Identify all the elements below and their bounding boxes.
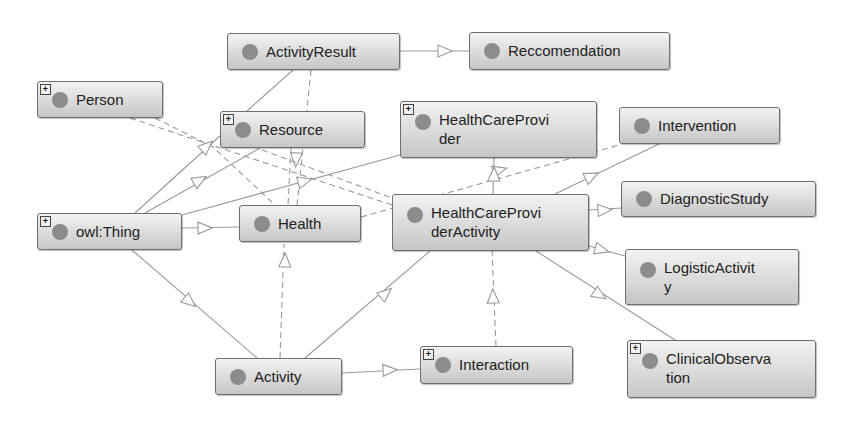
class-dot-icon bbox=[640, 262, 656, 278]
class-node-diagnostic-study[interactable]: DiagnosticStudy bbox=[621, 181, 816, 217]
class-node-owl-thing[interactable]: +owl:Thing bbox=[37, 213, 182, 250]
class-label: owl:Thing bbox=[76, 222, 175, 241]
class-node-clinical-observation[interactable]: +ClinicalObserva tion bbox=[627, 340, 816, 398]
arrowhead-icon bbox=[377, 288, 392, 302]
class-label: Resource bbox=[259, 120, 358, 139]
class-dot-icon bbox=[242, 44, 258, 60]
class-dot-icon bbox=[235, 122, 251, 138]
class-label: Intervention bbox=[658, 116, 773, 135]
class-node-intervention[interactable]: Intervention bbox=[619, 107, 780, 144]
class-dot-icon bbox=[230, 369, 246, 385]
edge-activity_result-to-resource bbox=[247, 70, 293, 111]
expand-plus-icon[interactable]: + bbox=[223, 114, 234, 125]
class-dot-icon bbox=[435, 357, 451, 373]
arrowhead-icon bbox=[290, 153, 302, 167]
class-node-activity-result[interactable]: ActivityResult bbox=[227, 33, 400, 70]
class-label: Activity bbox=[254, 367, 335, 386]
class-node-person[interactable]: +Person bbox=[37, 81, 163, 118]
class-node-health-care-provider[interactable]: +HealthCareProvi der bbox=[400, 101, 597, 158]
class-label: HealthCareProvi derActivity bbox=[431, 203, 582, 241]
class-node-interaction[interactable]: +Interaction bbox=[420, 346, 573, 384]
arrowhead-icon bbox=[181, 293, 196, 307]
arrowhead-icon bbox=[487, 289, 499, 303]
class-label: LogisticActivit y bbox=[664, 258, 792, 296]
arrowhead-icon bbox=[438, 45, 452, 57]
class-dot-icon bbox=[636, 191, 652, 207]
class-label: Interaction bbox=[459, 355, 566, 374]
class-dot-icon bbox=[484, 43, 500, 59]
class-dot-icon bbox=[52, 224, 68, 240]
class-node-health-care-provider-activity[interactable]: HealthCareProvi derActivity bbox=[392, 194, 589, 251]
expand-plus-icon[interactable]: + bbox=[40, 84, 51, 95]
class-node-reccomendation[interactable]: Reccomendation bbox=[469, 32, 670, 70]
edge-activity-to-interaction bbox=[342, 369, 420, 373]
class-label: ClinicalObserva tion bbox=[666, 349, 809, 387]
class-dot-icon bbox=[415, 114, 431, 130]
arrowhead-icon bbox=[594, 242, 609, 254]
expand-plus-icon[interactable]: + bbox=[423, 349, 434, 360]
arrowhead-icon bbox=[191, 177, 206, 189]
class-label: HealthCareProvi der bbox=[439, 110, 590, 148]
class-node-resource[interactable]: +Resource bbox=[220, 111, 365, 148]
edge-activity-to-health_care_provider_activity bbox=[305, 251, 430, 358]
expand-plus-icon[interactable]: + bbox=[630, 343, 641, 354]
class-label: ActivityResult bbox=[266, 42, 393, 61]
class-dot-icon bbox=[642, 353, 658, 369]
expand-plus-icon[interactable]: + bbox=[403, 104, 414, 115]
class-node-logistic-activity[interactable]: LogisticActivit y bbox=[625, 249, 799, 305]
class-dot-icon bbox=[407, 207, 423, 223]
class-dot-icon bbox=[634, 118, 650, 134]
expand-plus-icon[interactable]: + bbox=[40, 216, 51, 227]
arrowhead-icon bbox=[297, 177, 312, 189]
class-label: DiagnosticStudy bbox=[660, 189, 809, 208]
edge-resource-to-health_care_provider_activity bbox=[262, 150, 392, 198]
class-dot-icon bbox=[254, 216, 270, 232]
arrowhead-icon bbox=[598, 204, 612, 216]
arrowhead-icon bbox=[279, 253, 291, 267]
class-label: Health bbox=[278, 214, 354, 233]
class-node-activity[interactable]: Activity bbox=[215, 358, 342, 395]
arrowhead-icon bbox=[383, 364, 397, 376]
class-label: Reccomendation bbox=[508, 41, 663, 60]
class-node-health[interactable]: Health bbox=[239, 205, 361, 242]
class-dot-icon bbox=[52, 92, 68, 108]
arrowhead-icon bbox=[583, 173, 598, 184]
class-label: Person bbox=[76, 90, 156, 109]
arrowhead-icon bbox=[198, 222, 212, 234]
edge-resource-to-health bbox=[288, 148, 291, 205]
arrowhead-icon bbox=[198, 141, 212, 155]
